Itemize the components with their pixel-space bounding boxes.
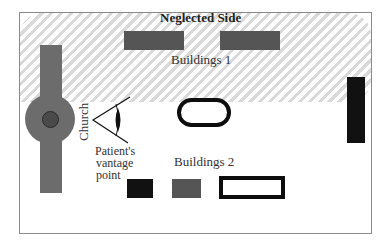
- building-1a: [124, 31, 184, 50]
- neglected-side-title: Neglected Side: [160, 10, 241, 26]
- right-building: [347, 77, 365, 143]
- buildings-2-label: Buildings 2: [174, 154, 234, 170]
- eye-icon: [85, 92, 135, 148]
- buildings-1-label: Buildings 1: [171, 52, 231, 68]
- vantage-point-label: Patient's vantage point: [95, 145, 135, 181]
- church-dome-center: [42, 111, 59, 128]
- building-2c: [219, 176, 285, 199]
- building-2b: [172, 179, 201, 198]
- building-2a: [127, 179, 153, 198]
- building-1b: [220, 31, 280, 50]
- central-object: [177, 98, 231, 127]
